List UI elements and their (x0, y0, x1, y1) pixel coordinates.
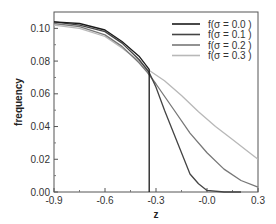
y-tick-label: 0.10 (31, 23, 51, 34)
y-axis-label: frequency (13, 78, 24, 126)
series-line (54, 22, 149, 192)
legend-label: f(σ = 0.3 ) (208, 50, 252, 61)
legend-label: f(σ = 0.0 ) (208, 19, 252, 30)
x-tick-label: -0.6 (96, 195, 114, 206)
y-tick-label: 0.02 (31, 154, 51, 165)
x-axis-label: z (154, 209, 159, 220)
y-tick-label: 0.00 (31, 187, 51, 198)
y-tick-label: 0.04 (31, 121, 51, 132)
legend-label: f(σ = 0.1 ) (208, 29, 252, 40)
x-tick-label: 0.3 (251, 195, 265, 206)
x-tick-label: -0.3 (147, 195, 165, 206)
x-tick-label: -0.0 (198, 195, 216, 206)
legend: f(σ = 0.0 )f(σ = 0.1 )f(σ = 0.2 )f(σ = 0… (172, 19, 252, 62)
y-tick-label: 0.08 (31, 56, 51, 67)
line-chart: -0.9-0.6-0.3-0.00.30.000.020.040.060.080… (0, 0, 276, 224)
y-tick-label: 0.06 (31, 88, 51, 99)
legend-label: f(σ = 0.2 ) (208, 40, 252, 51)
